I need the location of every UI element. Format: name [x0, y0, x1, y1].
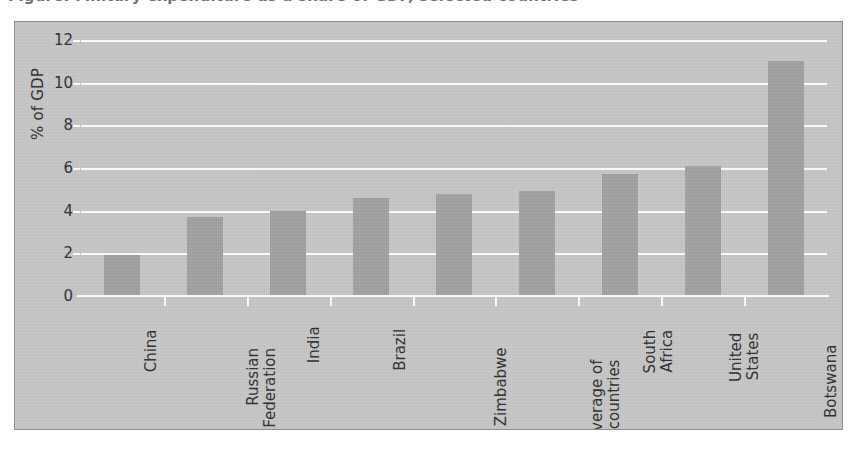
chart-figure: % of GDP 024681012 ChinaRussianFederatio… — [14, 21, 843, 430]
cropped-figure-title-text: Figure: Military expenditure as a share … — [8, 0, 579, 5]
x-tick-mark — [330, 297, 332, 306]
x-category-label-line: India — [307, 326, 324, 363]
y-tick-label: 8 — [47, 116, 73, 134]
y-tick-label: 2 — [47, 244, 73, 262]
x-category-label-line: 154 countries — [606, 360, 623, 430]
plot-area — [81, 40, 827, 296]
y-tick-label: 12 — [47, 31, 73, 49]
y-tick-mark — [73, 211, 80, 213]
x-category-label: RussianFederation — [245, 348, 280, 428]
y-tick-mark — [73, 168, 80, 170]
gridline — [81, 40, 827, 42]
bar — [353, 198, 389, 296]
x-category-label-line: China — [144, 329, 161, 372]
cropped-figure-title: Figure: Military expenditure as a share … — [0, 0, 857, 14]
x-category-label-line: United — [727, 333, 744, 382]
x-category-label-line: States — [745, 333, 762, 382]
x-tick-mark — [413, 297, 415, 306]
bar — [104, 255, 140, 296]
x-tick-mark — [578, 297, 580, 306]
x-tick-mark — [495, 297, 497, 306]
x-category-label: China — [144, 329, 161, 372]
bar — [436, 194, 472, 296]
x-category-label: SouthAfrica — [642, 330, 677, 374]
x-tick-mark — [744, 297, 746, 306]
y-tick-label: 0 — [47, 287, 73, 305]
x-category-label-line: Brazil — [392, 329, 409, 371]
x-axis-category-labels: ChinaRussianFederationIndiaBrazilZimbabw… — [81, 308, 827, 428]
x-tick-mark — [661, 297, 663, 306]
y-tick-label: 10 — [47, 74, 73, 92]
y-axis-tick-labels: 024681012 — [43, 22, 73, 429]
x-tick-mark — [247, 297, 249, 306]
y-tick-label: 4 — [47, 202, 73, 220]
x-category-label: Average of154 countries — [588, 360, 623, 430]
bar — [685, 166, 721, 296]
y-tick-label: 6 — [47, 159, 73, 177]
x-category-label-line: South — [642, 330, 659, 374]
y-tick-mark — [73, 83, 80, 85]
y-tick-mark — [73, 253, 80, 255]
x-category-label-line: Africa — [659, 330, 676, 374]
gridline — [81, 125, 827, 127]
x-category-label: Botswana — [822, 345, 839, 418]
y-tick-mark — [73, 125, 80, 127]
x-category-label: India — [307, 326, 324, 363]
x-category-label-line: Botswana — [822, 345, 839, 418]
bar — [270, 211, 306, 296]
x-tick-mark — [164, 297, 166, 306]
bar — [519, 191, 555, 296]
x-category-label: Zimbabwe — [493, 347, 510, 426]
y-tick-mark — [73, 40, 80, 42]
x-category-label: UnitedStates — [727, 333, 762, 382]
gridline — [81, 83, 827, 85]
bar — [187, 217, 223, 296]
bar — [768, 61, 804, 296]
x-axis-tick-marks — [81, 297, 827, 306]
x-category-label-line: Federation — [263, 348, 280, 428]
x-category-label-line: Average of — [588, 360, 605, 430]
x-category-label: Brazil — [392, 329, 409, 371]
x-category-label-line: Russian — [245, 348, 262, 428]
x-category-label-line: Zimbabwe — [493, 347, 510, 426]
bar — [602, 174, 638, 296]
